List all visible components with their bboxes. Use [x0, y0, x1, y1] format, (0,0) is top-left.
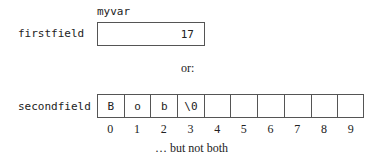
array-cell: o: [125, 95, 152, 117]
array-index: 8: [311, 122, 338, 137]
array-cell: B: [98, 95, 125, 117]
var-name-label: myvar: [97, 5, 130, 18]
secondfield-array: B o b \0: [97, 94, 364, 118]
array-cell: b: [151, 95, 178, 117]
array-index: 2: [150, 122, 177, 137]
array-cell: [205, 95, 232, 117]
array-index: 3: [177, 122, 204, 137]
array-cell: [312, 95, 339, 117]
array-cell: [285, 95, 312, 117]
array-cell: [258, 95, 285, 117]
separator-text: or:: [181, 61, 194, 76]
array-cell: [338, 95, 365, 117]
array-index: 9: [337, 122, 364, 137]
array-index: 0: [97, 122, 124, 137]
array-index: 6: [257, 122, 284, 137]
array-index: 7: [284, 122, 311, 137]
array-index: 5: [231, 122, 258, 137]
array-index: 1: [124, 122, 151, 137]
array-cell: [232, 95, 259, 117]
array-index: 4: [204, 122, 231, 137]
firstfield-value: 17: [181, 28, 194, 41]
firstfield-box: 17: [97, 22, 205, 46]
caption-text: … but not both: [155, 141, 228, 156]
array-cell: \0: [178, 95, 205, 117]
firstfield-label: firstfield: [18, 27, 84, 40]
secondfield-label: secondfield: [18, 100, 91, 113]
